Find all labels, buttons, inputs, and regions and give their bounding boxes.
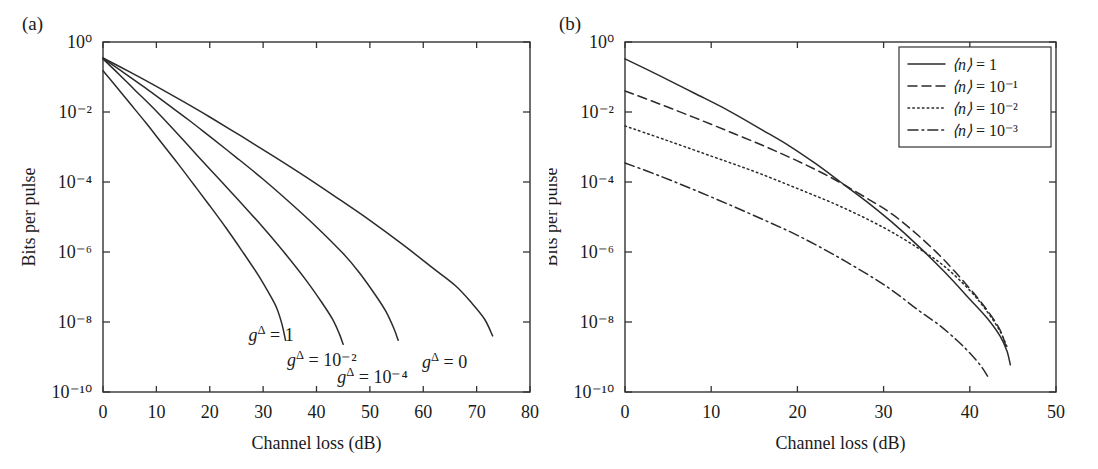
data-curve — [625, 126, 1007, 347]
y-tick-label: 10⁰ — [589, 32, 614, 52]
y-tick-label: 10⁻⁶ — [580, 242, 614, 262]
y-axis-title: Bits per pulse — [19, 167, 39, 266]
x-tick-label: 10 — [147, 402, 165, 422]
data-curve — [103, 59, 343, 344]
panel-tag: (a) — [22, 13, 43, 35]
legend-n-1e-3: ⟨n⟩ = 10⁻³ — [952, 122, 1018, 139]
x-tick-label: 0 — [99, 402, 108, 422]
x-tick-label: 20 — [788, 402, 806, 422]
x-tick-label: 20 — [201, 402, 219, 422]
x-tick-label: 70 — [468, 402, 486, 422]
x-tick-label: 50 — [1047, 402, 1065, 422]
panel-b-svg: (b)0102030405010⁰10⁻²10⁻⁴10⁻⁶10⁻⁸10⁻¹⁰Ch… — [549, 0, 1098, 469]
data-curve — [625, 163, 989, 378]
x-tick-label: 60 — [414, 402, 432, 422]
x-tick-label: 40 — [308, 402, 326, 422]
y-tick-label: 10⁻⁴ — [58, 172, 92, 192]
panel-tag: (b) — [559, 13, 581, 35]
y-tick-label: 10⁻² — [59, 102, 92, 122]
y-tick-label: 10⁻⁴ — [580, 172, 614, 192]
x-tick-label: 0 — [621, 402, 630, 422]
plot-frame — [103, 42, 530, 392]
data-curve — [103, 58, 398, 340]
figure-container: (a)0102030405060708010⁰10⁻²10⁻⁴10⁻⁶10⁻⁸1… — [0, 0, 1098, 469]
curve-annotation-g-delta-0: gΔ = 0 — [422, 350, 467, 372]
panel-a: (a)0102030405060708010⁰10⁻²10⁻⁴10⁻⁶10⁻⁸1… — [0, 0, 549, 469]
y-tick-label: 10⁻² — [581, 102, 614, 122]
x-tick-label: 50 — [361, 402, 379, 422]
x-tick-label: 30 — [254, 402, 272, 422]
y-tick-label: 10⁻⁸ — [58, 312, 92, 332]
y-tick-label: 10⁻⁶ — [58, 242, 92, 262]
legend-n-1: ⟨n⟩ = 1 — [952, 56, 997, 73]
curve-annotation-g-delta-1: gΔ = 1 — [249, 323, 294, 345]
legend-n-1e-1: ⟨n⟩ = 10⁻¹ — [952, 78, 1018, 95]
y-tick-label: 10⁻¹⁰ — [574, 382, 614, 402]
curve-annotation-g-delta-1e-4: gΔ = 10⁻⁴ — [337, 365, 407, 387]
x-tick-label: 10 — [702, 402, 720, 422]
y-axis-title: Bits per pulse — [549, 167, 561, 266]
x-axis-title: Channel loss (dB) — [252, 433, 382, 454]
panel-a-svg: (a)0102030405060708010⁰10⁻²10⁻⁴10⁻⁶10⁻⁸1… — [0, 0, 549, 469]
x-tick-label: 80 — [521, 402, 539, 422]
y-tick-label: 10⁻¹⁰ — [52, 382, 92, 402]
x-axis-title: Channel loss (dB) — [776, 433, 906, 454]
x-tick-label: 40 — [961, 402, 979, 422]
panel-b: (b)0102030405010⁰10⁻²10⁻⁴10⁻⁶10⁻⁸10⁻¹⁰Ch… — [549, 0, 1098, 469]
legend-n-1e-2: ⟨n⟩ = 10⁻² — [952, 100, 1018, 117]
y-tick-label: 10⁻⁸ — [580, 312, 614, 332]
data-curve — [103, 71, 286, 340]
y-tick-label: 10⁰ — [67, 32, 92, 52]
x-tick-label: 30 — [875, 402, 893, 422]
